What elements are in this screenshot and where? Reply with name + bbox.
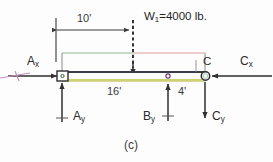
reaction-label-Ax: Ax [27,55,39,69]
reaction-Ay-arrow [56,83,68,122]
reaction-label-By: By [143,110,155,124]
node-label-C: C [203,56,211,68]
free-body-diagram-figure: 10' W1=4000 lb. Ax Ay By Cx Cy C 16' 4' … [0,0,273,162]
reaction-label-Ax-symbol: A [27,54,35,68]
reaction-label-Cx-symbol: C [240,54,249,68]
reaction-label-Cy: Cy [212,110,225,124]
load-label-W1-value: =4000 lb. [159,10,207,22]
dimension-label-16ft: 16' [107,86,121,97]
reaction-label-Cy-subscript: y [221,115,225,124]
reaction-label-Cx-subscript: x [249,60,253,69]
reaction-label-By-subscript: y [151,115,155,124]
reaction-label-By-symbol: B [143,109,151,123]
reaction-label-Ay-symbol: A [73,109,81,123]
load-label-W1-symbol: W [144,10,155,22]
reaction-label-Ay-subscript: y [81,115,85,124]
dimension-10ft [56,18,129,62]
beam-member [60,72,206,82]
dimension-label-4ft: 4' [178,86,186,97]
load-label-W1: W1=4000 lb. [144,11,207,24]
reaction-By-arrow [162,84,174,121]
reaction-label-Ax-subscript: x [35,60,39,69]
reaction-Ax-arrow [0,71,57,81]
joint-C [201,72,209,80]
dimension-label-10ft: 10' [77,13,91,24]
joint-A [57,71,68,81]
reaction-label-Ay: Ay [73,110,85,124]
reaction-label-Cx: Cx [240,55,253,69]
figure-caption: (c) [124,139,138,151]
reaction-label-Cy-symbol: C [212,109,221,123]
